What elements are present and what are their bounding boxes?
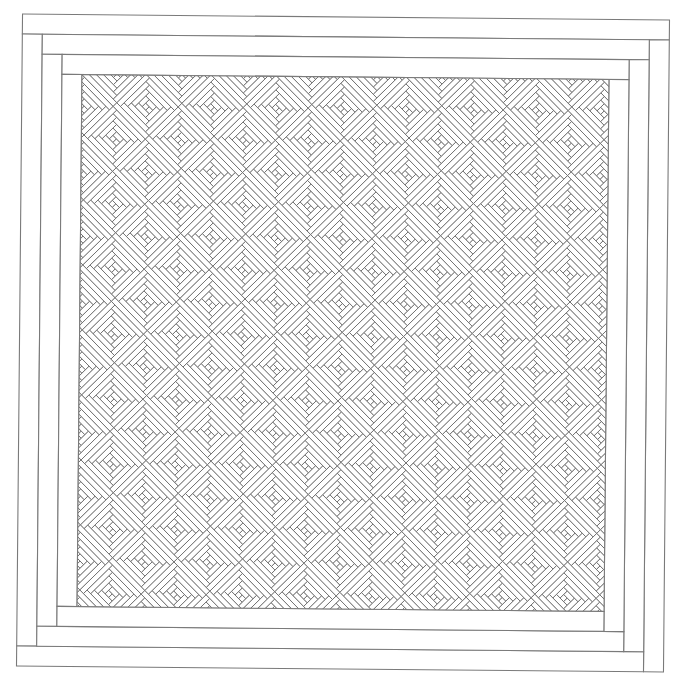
- log-cabin-center-panel: [11, 8, 667, 664]
- quilt: [10, 8, 669, 672]
- quilt-pattern-drawing: [0, 0, 686, 679]
